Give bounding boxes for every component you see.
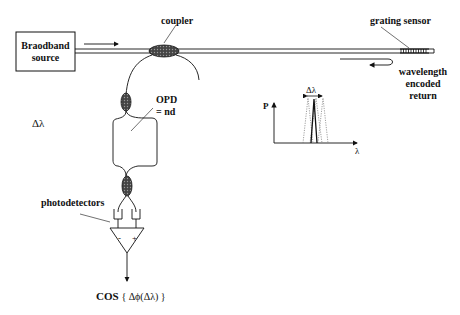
photodetectors-label: photodetectors	[41, 197, 104, 209]
reflected-peak	[311, 99, 317, 143]
source-label-line2: source	[16, 52, 75, 64]
opd-label: OPD = nd	[156, 94, 177, 118]
short-arm-fiber	[113, 111, 126, 176]
wavelength-encoded-return-label: wavelength encoded return	[388, 66, 458, 102]
spectrum-shift-label: Δλ	[306, 84, 316, 96]
coupler-icon	[149, 45, 179, 57]
coupler-output-fiber	[126, 55, 152, 95]
shifted-peak-right	[318, 98, 328, 143]
recombining-coupler-icon	[122, 176, 132, 196]
power-axis-label: P	[263, 100, 269, 112]
interferometric-wavelength-demodulation-diagram: Braodband source coupler grating sensor …	[0, 0, 460, 315]
differential-amplifier-icon	[110, 228, 144, 253]
source-label-line1: Braodband	[16, 40, 75, 52]
return-arrow-icon	[340, 59, 393, 65]
amplifier-minus-sign: -	[118, 232, 121, 244]
output-cos-text: COS	[96, 290, 119, 302]
main-fiber	[75, 49, 434, 53]
opd-leader-line	[131, 108, 153, 131]
opd-label-line1: OPD	[156, 94, 177, 106]
output-signal-label: COS { Δϕ(Δλ) }	[96, 290, 166, 303]
grating-leader-line	[381, 27, 409, 48]
return-label-line3: return	[388, 90, 458, 102]
output-expression-text: { Δϕ(Δλ) }	[121, 291, 165, 302]
grating-sensor-label: grating sensor	[370, 15, 431, 27]
wavelength-axis-label: λ	[355, 145, 359, 157]
splitter-coupler-icon	[121, 93, 131, 111]
coupler-leader-line	[164, 25, 176, 43]
long-arm-fiber	[126, 111, 157, 176]
return-label-line1: wavelength	[388, 66, 458, 78]
broadband-source-label: Braodband source	[16, 40, 75, 64]
spectrum-plot	[274, 96, 357, 143]
photodetectors-leader-line	[80, 214, 110, 222]
grating-sensor-icon	[400, 49, 429, 53]
return-label-line2: encoded	[388, 78, 458, 90]
coupler-label: coupler	[161, 15, 193, 27]
coupler-terminated-fiber	[176, 55, 199, 80]
amplifier-plus-sign: +	[132, 232, 137, 244]
opd-label-line2: = nd	[156, 106, 177, 118]
delta-lambda-label: Δλ	[32, 117, 44, 129]
